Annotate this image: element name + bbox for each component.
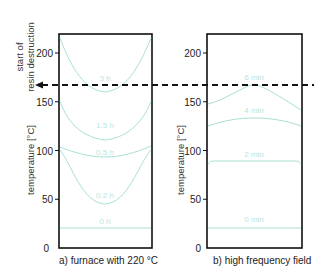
tick-150-a: 150 [36,97,53,108]
curve-label-0-5h: 0.5 h [96,148,114,157]
tick-100-a: 100 [36,146,53,157]
curve-label-3h: 3 h [99,74,110,83]
curve-label-1-5h: 1.5 h [96,121,114,130]
y-axis-label-a: temperature [°C] [25,125,36,195]
tick-100-b: 100 [184,146,201,157]
curve-label-2min: 2 min [244,150,264,159]
caption-b: b) high frequency field [213,255,311,266]
annotation-line1: start of [14,42,25,71]
tick-200-b: 200 [184,48,201,59]
panel-high-frequency: 200 150 100 50 0 6 min 4 min 2 min 0 min… [184,34,311,266]
curve-label-0h: 0 h [99,217,110,226]
panel-furnace: 200 150 100 50 0 3 h 1.5 h 0.5 h 0.2 h 0… [36,34,158,266]
y-axis-label-b: temperature [°C] [175,125,186,195]
curve-label-0-2h: 0.2 h [96,191,114,200]
curve-3h [60,38,151,92]
caption-a: a) furnace with 220 °C [59,255,158,266]
tick-50-b: 50 [190,194,202,205]
tick-50-a: 50 [42,194,54,205]
tick-200-a: 200 [36,48,53,59]
tick-0-b: 0 [195,243,201,254]
resin-destruction-threshold [35,82,314,89]
tick-0-a: 0 [43,243,49,254]
curve-label-6min: 6 min [244,73,264,82]
arrow-left-icon [35,82,43,89]
curve-label-0min: 0 min [244,215,264,224]
chart-canvas: 200 150 100 50 0 3 h 1.5 h 0.5 h 0.2 h 0… [0,0,325,274]
annotation-line2: resin destruction [25,22,36,92]
curve-label-4min: 4 min [244,106,264,115]
tick-150-b: 150 [184,97,201,108]
curve-4min [208,118,301,126]
curve-2min [208,161,301,164]
